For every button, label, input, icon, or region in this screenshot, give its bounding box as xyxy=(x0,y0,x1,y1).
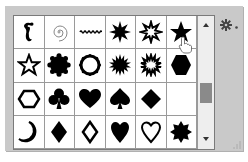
crescent-moon-icon xyxy=(169,87,193,111)
dropdown-dot-icon xyxy=(234,25,239,30)
scalloped-circle-outline-icon xyxy=(78,53,102,77)
scroll-thumb[interactable] xyxy=(200,83,212,103)
arrow-up-icon xyxy=(203,23,209,27)
diamond-outline-icon xyxy=(78,120,102,144)
shape-crescent-moon-outline[interactable] xyxy=(14,116,45,149)
scalloped-circle-icon xyxy=(47,53,71,77)
heart-icon xyxy=(108,120,132,144)
heart-outline-icon xyxy=(139,120,163,144)
hexagon-outline-icon xyxy=(17,87,41,111)
shape-club[interactable] xyxy=(45,83,76,116)
spade-icon xyxy=(108,87,132,111)
shape-diamond[interactable] xyxy=(45,116,76,149)
resize-grip-icon[interactable] xyxy=(231,139,241,149)
starburst-icon xyxy=(108,20,132,44)
starburst-16-outline-icon xyxy=(139,53,163,77)
shape-grid-frame xyxy=(13,15,215,150)
arrow-down-icon xyxy=(203,137,209,141)
shape-ornament[interactable] xyxy=(14,16,45,49)
shape-starburst-16[interactable] xyxy=(106,49,137,82)
scroll-up-button[interactable] xyxy=(198,18,214,32)
heart-card-icon xyxy=(78,87,102,111)
vertical-scrollbar[interactable] xyxy=(197,16,214,149)
shape-spiral[interactable] xyxy=(45,16,76,49)
star-outline-icon xyxy=(17,53,41,77)
wavy-line-icon xyxy=(78,20,102,44)
shape-starburst-12[interactable] xyxy=(106,16,137,49)
shape-wavy-line[interactable] xyxy=(75,16,106,49)
scroll-down-button[interactable] xyxy=(198,132,214,146)
shape-heart-outline[interactable] xyxy=(136,116,167,149)
panel-menu-button[interactable] xyxy=(220,18,242,32)
starburst-16-icon xyxy=(108,53,132,77)
shape-star-outline[interactable] xyxy=(14,49,45,82)
shape-spade[interactable] xyxy=(106,83,137,116)
hexagon-icon xyxy=(169,53,193,77)
shape-starburst-16-outline[interactable] xyxy=(136,49,167,82)
shape-seal-8-point[interactable] xyxy=(167,116,198,149)
club-icon xyxy=(47,87,71,111)
diamond-card-icon xyxy=(139,87,163,111)
shape-grid xyxy=(14,16,197,149)
starburst-outline-icon xyxy=(139,20,163,44)
shape-heart-card[interactable] xyxy=(75,83,106,116)
shape-star-selected[interactable] xyxy=(167,16,198,49)
shape-diamond-card[interactable] xyxy=(136,83,167,116)
shape-hexagon-outline[interactable] xyxy=(14,83,45,116)
shape-heart[interactable] xyxy=(106,116,137,149)
shape-diamond-outline[interactable] xyxy=(75,116,106,149)
shape-crescent-moon[interactable] xyxy=(167,83,198,116)
gear-icon xyxy=(220,19,232,31)
shape-scalloped-circle-outline[interactable] xyxy=(75,49,106,82)
shape-hexagon[interactable] xyxy=(167,49,198,82)
seal-icon xyxy=(169,120,193,144)
ornament-icon xyxy=(17,20,41,44)
star-icon xyxy=(169,20,193,44)
spiral-icon xyxy=(47,20,71,44)
crescent-moon-outline-icon xyxy=(17,120,41,144)
shape-scalloped-circle[interactable] xyxy=(45,49,76,82)
diamond-icon xyxy=(47,120,71,144)
shape-starburst-12-outline[interactable] xyxy=(136,16,167,49)
